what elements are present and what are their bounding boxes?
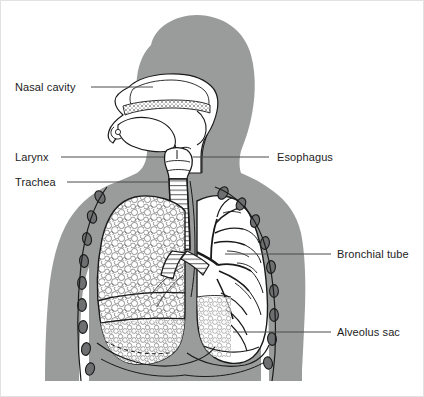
label-esophagus: Esophagus (277, 151, 333, 163)
label-trachea: Trachea (15, 176, 56, 188)
label-bronchial-tube: Bronchial tube (337, 248, 409, 260)
label-larynx: Larynx (15, 151, 49, 163)
larynx (164, 148, 192, 179)
label-nasal-cavity: Nasal cavity (15, 81, 76, 93)
left-lung (97, 196, 191, 369)
diagram-figure: Nasal cavity Larynx Trachea Esophagus Br… (0, 0, 424, 397)
label-alveolus-sac: Alveolus sac (337, 326, 400, 338)
